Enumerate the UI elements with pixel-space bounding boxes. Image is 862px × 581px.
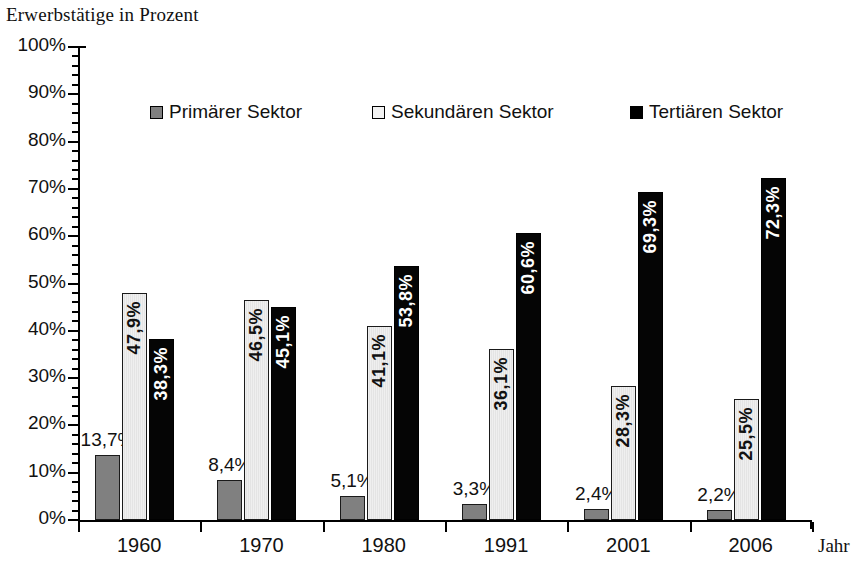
bar-primary-1970[interactable] [217,480,242,520]
x-axis-tick-label-2001: 2001 [568,534,688,557]
bar-value-label: 36,1% [491,357,512,411]
bar-value-label: 38,3% [151,347,172,401]
bar-value-label: 41,1% [369,334,390,388]
x-axis-tick [323,522,325,532]
bar-value-label: 45,1% [273,315,294,369]
y-axis-tick-label: 100% [4,34,66,56]
bar-primary-2001[interactable] [584,509,609,520]
y-axis-tick-label: 70% [4,176,66,198]
x-axis-title: Jahr [818,535,850,557]
bar-value-label: 28,3% [613,394,634,448]
bar-primary-2006[interactable] [707,510,732,520]
x-axis-tick-label-2006: 2006 [691,534,811,557]
bar-value-label: 47,9% [124,301,145,355]
chart-page: Erwerbstätige in Prozent 100%90%80%70%60… [0,0,862,581]
x-axis-tick [812,522,814,532]
bar-primary-1960[interactable] [95,455,120,520]
x-axis-tick-label-1991: 1991 [446,534,566,557]
x-axis-tick [567,522,569,532]
x-axis-tick [445,522,447,532]
x-axis-tick-label-1970: 1970 [201,534,321,557]
x-axis-tick [690,522,692,532]
y-axis-tick-label: 30% [4,365,66,387]
x-axis-tick [78,522,80,532]
x-axis-tick [200,522,202,532]
y-axis-tick-label: 60% [4,223,66,245]
bar-value-label: 72,3% [763,186,784,240]
plot-area: 13,7%47,9%38,3%8,4%46,5%45,1%5,1%41,1%53… [78,47,810,520]
y-axis-tick-label: 0% [4,507,66,529]
y-axis-labels: 100%90%80%70%60%50%40%30%20%10%0% [0,0,66,581]
bar-value-label: 60,6% [518,241,539,295]
y-axis-tick-label: 50% [4,271,66,293]
y-axis-tick-label: 80% [4,129,66,151]
x-axis-tick-label-1980: 1980 [324,534,444,557]
bar-primary-1991[interactable] [462,504,487,520]
bar-value-label: 53,8% [396,274,417,328]
x-axis-tick-label-1960: 1960 [79,534,199,557]
bar-value-label: 69,3% [640,200,661,254]
y-axis-tick-label: 90% [4,81,66,103]
y-axis-tick-label: 20% [4,412,66,434]
bar-value-label: 25,5% [736,407,757,461]
bar-value-label: 46,5% [246,308,267,362]
bar-primary-1980[interactable] [340,496,365,520]
y-axis-tick-label: 10% [4,460,66,482]
y-axis-tick-label: 40% [4,318,66,340]
